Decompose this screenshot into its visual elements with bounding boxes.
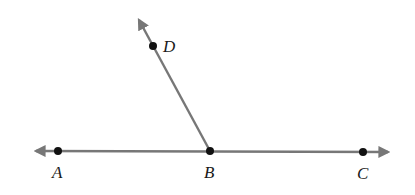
label-d: D (162, 37, 176, 56)
point-a (54, 147, 62, 155)
label-b: B (204, 163, 215, 182)
label-c: C (357, 164, 369, 183)
label-a: A (51, 163, 63, 182)
point-b (206, 147, 214, 155)
point-c (359, 148, 367, 156)
geometry-diagram: A B C D (0, 0, 415, 195)
point-d (149, 42, 157, 50)
